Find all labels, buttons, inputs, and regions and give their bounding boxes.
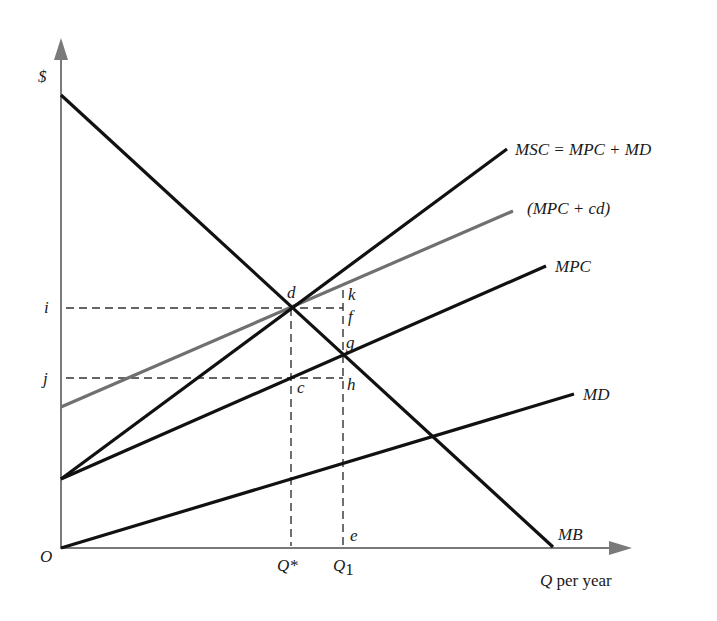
q-star-tick-label: Q*: [277, 556, 298, 575]
point-k-label: k: [348, 285, 356, 304]
mb-curve: [61, 95, 553, 547]
q1-main: Q: [333, 556, 345, 575]
point-g-label: g: [346, 333, 355, 352]
point-e-label: e: [350, 526, 358, 545]
msc-label: MSC = MPC + MD: [514, 140, 652, 159]
i-tick-label: i: [44, 298, 49, 317]
mb-label: MB: [557, 525, 583, 544]
y-axis-label: $: [38, 67, 47, 86]
md-curve: [61, 394, 574, 548]
point-c-label: c: [297, 378, 305, 397]
q1-tick-label: Q1: [333, 556, 354, 579]
curve-labels: MSC = MPC + MD (MPC + cd) MPC MD MB: [514, 140, 652, 544]
x-axis-arrow-icon: [609, 541, 632, 555]
x-axis-unit: per year: [552, 571, 612, 590]
x-axis-var: Q: [540, 571, 552, 590]
q1-sub: 1: [345, 560, 354, 579]
y-axis-arrow-icon: [54, 38, 68, 60]
x-axis-label: Q per year: [540, 571, 612, 590]
point-d-label: d: [287, 283, 296, 302]
mpc-plus-cd-label: (MPC + cd): [527, 199, 611, 218]
point-h-label: h: [347, 375, 356, 394]
j-tick-label: j: [41, 369, 48, 388]
md-label: MD: [582, 385, 610, 404]
origin-label: O: [40, 547, 52, 566]
guide-lines: [66, 290, 343, 546]
point-f-label: f: [348, 307, 355, 326]
externality-diagram: MSC = MPC + MD (MPC + cd) MPC MD MB $ O …: [0, 0, 717, 621]
point-labels: d k f g h c e: [287, 283, 358, 545]
curves: [61, 95, 574, 548]
mpc-label: MPC: [554, 257, 592, 276]
